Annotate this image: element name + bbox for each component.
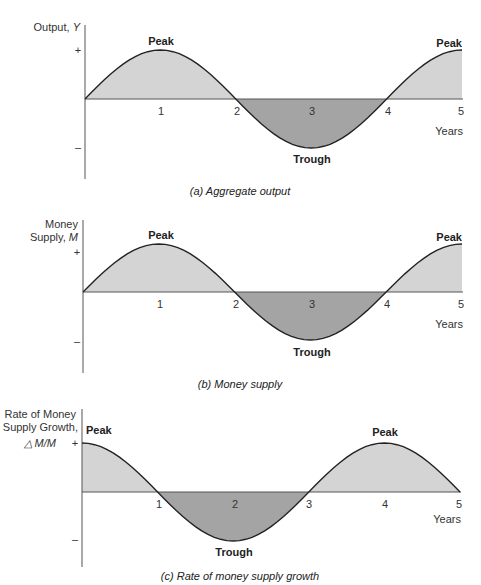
x-tick: 2 xyxy=(232,498,238,510)
minus-tick: – xyxy=(72,533,79,545)
y-axis-label-line2: Supply Growth, xyxy=(3,421,78,433)
peak-label: Peak xyxy=(148,229,175,241)
business-cycle-figure: Output, Y + – Peak Trough Peak 1 2 3 4 5… xyxy=(0,0,481,585)
x-tick: 3 xyxy=(309,298,315,310)
x-tick: 5 xyxy=(458,298,464,310)
y-axis-label-line1: Money xyxy=(45,218,79,230)
panel-money-supply: Money Supply, M + – Peak Trough Peak 1 2… xyxy=(30,218,464,390)
y-axis-label: Output, Y xyxy=(34,21,81,33)
plus-tick: + xyxy=(72,437,78,449)
positive-area xyxy=(386,244,462,292)
positive-area xyxy=(83,244,235,292)
trough-label: Trough xyxy=(293,153,331,165)
trough-label: Trough xyxy=(215,546,253,558)
peak-label: Peak xyxy=(86,424,113,436)
x-tick: 5 xyxy=(458,105,464,117)
plus-tick: + xyxy=(74,246,80,258)
x-axis-label: Years xyxy=(433,513,461,525)
positive-area xyxy=(82,443,158,492)
positive-area xyxy=(309,443,460,492)
minus-tick: – xyxy=(75,141,82,153)
x-axis-label: Years xyxy=(435,318,463,330)
panel-aggregate-output: Output, Y + – Peak Trough Peak 1 2 3 4 5… xyxy=(34,21,465,197)
peak-label: Peak xyxy=(436,231,463,243)
panel-caption: (a) Aggregate output xyxy=(190,185,291,197)
x-tick: 4 xyxy=(385,105,391,117)
plus-tick: + xyxy=(75,44,81,56)
x-axis-label: Years xyxy=(435,125,463,137)
peak-label: Peak xyxy=(372,426,399,438)
x-tick: 4 xyxy=(382,498,388,510)
y-axis-label-line3: △ M/M xyxy=(23,437,57,449)
positive-area xyxy=(85,50,236,99)
y-axis-label-line1: Rate of Money xyxy=(4,408,76,420)
x-tick: 3 xyxy=(309,105,315,117)
trough-label: Trough xyxy=(293,346,331,358)
panel-caption: (c) Rate of money supply growth xyxy=(161,570,319,582)
x-tick: 3 xyxy=(306,498,312,510)
x-tick: 2 xyxy=(233,298,239,310)
panel-money-growth-rate: Rate of Money Supply Growth, △ M/M + – P… xyxy=(3,408,462,582)
x-tick: 1 xyxy=(157,298,163,310)
x-tick: 5 xyxy=(456,498,462,510)
positive-area xyxy=(387,50,462,99)
peak-label: Peak xyxy=(436,37,463,49)
x-tick: 1 xyxy=(156,498,162,510)
x-tick: 4 xyxy=(384,298,390,310)
x-tick: 1 xyxy=(158,105,164,117)
panel-caption: (b) Money supply xyxy=(198,378,284,390)
peak-label: Peak xyxy=(148,35,175,47)
x-tick: 2 xyxy=(234,105,240,117)
minus-tick: – xyxy=(74,335,81,347)
y-axis-label-line2: Supply, M xyxy=(30,231,79,243)
